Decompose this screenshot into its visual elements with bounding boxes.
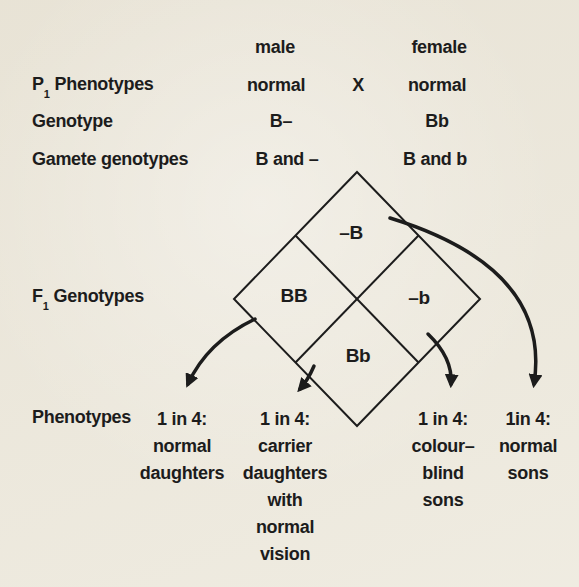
outcome-colour-blind-sons: 1 in 4: colour– blind sons: [412, 406, 475, 514]
f1-label-base: F: [32, 286, 43, 306]
male-phenotype-value: normal: [247, 76, 305, 94]
p1-label-subscript: 1: [44, 88, 50, 100]
female-genotype-value: Bb: [425, 112, 448, 130]
genotype-label: Genotype: [32, 112, 113, 130]
p1-phenotypes-label: P1Phenotypes: [32, 75, 154, 93]
p1-label-rest: Phenotypes: [55, 74, 154, 94]
female-column-header: female: [411, 38, 466, 56]
outcome-normal-sons: 1in 4: normal sons: [499, 406, 557, 487]
outcome-line: carrier: [243, 433, 327, 460]
outcome-carrier-daughters: 1 in 4: carrier daughters with normal vi…: [243, 406, 327, 568]
outcome-line: normal: [243, 514, 327, 541]
female-phenotype-value: normal: [408, 76, 466, 94]
punnett-cell-top: –B: [339, 223, 363, 242]
f1-label-subscript: 1: [43, 300, 49, 312]
outcome-line: blind: [412, 460, 475, 487]
arrow-to-normal-daughters: [188, 319, 255, 384]
f1-label-rest: Genotypes: [54, 286, 144, 306]
outcome-line: daughters: [140, 460, 224, 487]
outcome-line: sons: [499, 460, 557, 487]
p1-label-base: P: [32, 74, 44, 94]
outcome-line: vision: [243, 541, 327, 568]
outcome-line: sons: [412, 487, 475, 514]
female-gametes-value: B and b: [403, 150, 467, 168]
outcome-line: 1 in 4:: [243, 406, 327, 433]
punnett-cell-left: BB: [281, 286, 308, 305]
male-genotype-value: B–: [270, 112, 292, 130]
male-column-header: male: [255, 38, 295, 56]
phenotypes-label: Phenotypes: [32, 408, 131, 426]
gamete-genotypes-label: Gamete genotypes: [32, 150, 188, 168]
punnett-grid: [234, 172, 480, 426]
punnett-cell-right: –b: [408, 288, 430, 307]
outcome-line: daughters: [243, 460, 327, 487]
outcome-line: colour–: [412, 433, 475, 460]
outcome-line: 1in 4:: [499, 406, 557, 433]
outcome-normal-daughters: 1 in 4: normal daughters: [140, 406, 224, 487]
outcome-line: normal: [140, 433, 224, 460]
outcome-line: 1 in 4:: [140, 406, 224, 433]
f1-genotypes-label: F1Genotypes: [32, 287, 144, 305]
male-gametes-value: B and –: [256, 150, 319, 168]
outcome-line: normal: [499, 433, 557, 460]
outcome-line: with: [243, 487, 327, 514]
punnett-cell-bottom: Bb: [346, 346, 371, 365]
cross-symbol: X: [352, 76, 364, 94]
outcome-line: 1 in 4:: [412, 406, 475, 433]
